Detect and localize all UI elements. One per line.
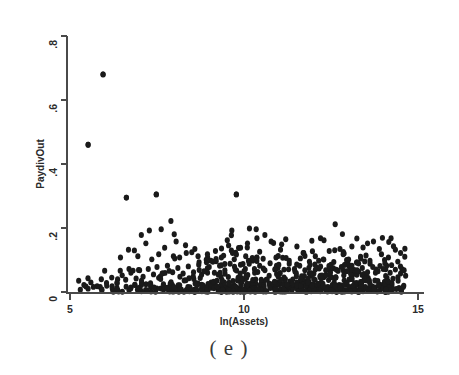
data-point xyxy=(124,195,129,201)
data-point xyxy=(208,258,213,264)
data-point xyxy=(165,263,170,269)
data-point xyxy=(395,259,400,265)
data-point xyxy=(257,263,262,269)
data-point xyxy=(159,226,164,232)
data-point xyxy=(104,280,109,286)
data-point xyxy=(344,257,349,263)
data-point xyxy=(177,254,182,260)
data-point xyxy=(110,283,115,289)
x-axis-tick-label: 10 xyxy=(238,303,250,315)
data-point xyxy=(371,286,376,292)
data-point xyxy=(245,240,250,246)
data-point xyxy=(283,236,288,242)
data-point xyxy=(175,265,180,271)
data-point xyxy=(393,247,398,253)
data-point xyxy=(333,221,338,227)
x-axis-tick-label: 5 xyxy=(67,303,73,315)
data-point xyxy=(319,275,324,281)
data-point xyxy=(186,263,191,269)
data-point xyxy=(154,191,159,197)
data-point xyxy=(191,269,196,275)
data-point xyxy=(382,260,387,266)
data-point xyxy=(358,254,363,260)
figure-caption: ( e ) xyxy=(210,336,249,360)
data-point xyxy=(328,262,333,268)
data-point xyxy=(334,267,339,273)
data-point xyxy=(123,277,128,283)
data-point xyxy=(360,245,365,251)
data-point xyxy=(171,284,176,290)
data-point xyxy=(311,276,316,282)
data-point xyxy=(294,244,299,250)
data-point xyxy=(247,226,252,232)
data-point xyxy=(199,282,204,288)
data-point xyxy=(229,228,234,234)
data-point xyxy=(102,268,107,274)
data-point xyxy=(318,263,323,269)
data-point xyxy=(402,254,407,260)
data-points-layer xyxy=(76,71,408,295)
data-point xyxy=(375,278,380,284)
data-point xyxy=(401,284,406,290)
data-point xyxy=(332,247,337,253)
data-point xyxy=(327,248,332,254)
y-axis-tick-label: .2 xyxy=(47,232,59,241)
y-axis-tick-label: .6 xyxy=(47,104,59,113)
data-point xyxy=(403,273,408,279)
data-point xyxy=(99,287,104,293)
data-point xyxy=(383,287,388,293)
data-point xyxy=(78,287,83,293)
data-point xyxy=(360,265,365,271)
data-point xyxy=(261,256,266,262)
scatter-plot-figure: 0.2.4.6.851015 ln(Assets)PaydivOut( e ) … xyxy=(0,0,459,375)
data-point xyxy=(124,284,129,290)
data-point xyxy=(172,231,177,237)
data-point xyxy=(238,262,243,268)
data-point xyxy=(357,289,362,295)
data-point xyxy=(313,253,318,259)
data-point xyxy=(187,284,192,290)
data-point xyxy=(340,231,345,237)
data-point xyxy=(241,268,246,274)
data-point xyxy=(310,248,315,254)
data-point xyxy=(76,278,81,284)
data-point xyxy=(301,250,306,256)
data-point xyxy=(154,264,159,270)
data-point xyxy=(355,260,360,266)
data-point xyxy=(233,267,238,273)
x-axis-tick-label: 15 xyxy=(412,303,424,315)
data-point xyxy=(337,246,342,252)
data-point xyxy=(196,262,201,268)
data-point xyxy=(194,287,199,293)
data-point xyxy=(379,251,384,257)
data-point xyxy=(402,267,407,273)
data-point xyxy=(393,267,398,273)
data-point xyxy=(268,260,273,266)
x-axis-title: ln(Assets) xyxy=(220,316,268,327)
data-point xyxy=(252,266,257,272)
data-point xyxy=(255,286,260,292)
data-point xyxy=(273,287,278,293)
data-point xyxy=(99,276,104,282)
data-point xyxy=(254,235,259,241)
data-point xyxy=(321,256,326,262)
data-point xyxy=(207,264,212,270)
data-point xyxy=(272,279,277,285)
data-point xyxy=(344,268,349,274)
data-point xyxy=(375,268,380,274)
data-point xyxy=(254,226,259,232)
data-point xyxy=(377,246,382,252)
data-point xyxy=(114,279,119,285)
data-point xyxy=(305,280,310,286)
data-point xyxy=(162,245,167,251)
data-point xyxy=(172,256,177,262)
data-point xyxy=(350,276,355,282)
data-point xyxy=(380,235,385,241)
data-point xyxy=(181,270,186,276)
data-point xyxy=(222,267,227,273)
data-point xyxy=(262,232,267,238)
data-point xyxy=(170,269,175,275)
data-point xyxy=(386,239,391,245)
data-point xyxy=(297,263,302,269)
data-point xyxy=(308,262,313,268)
